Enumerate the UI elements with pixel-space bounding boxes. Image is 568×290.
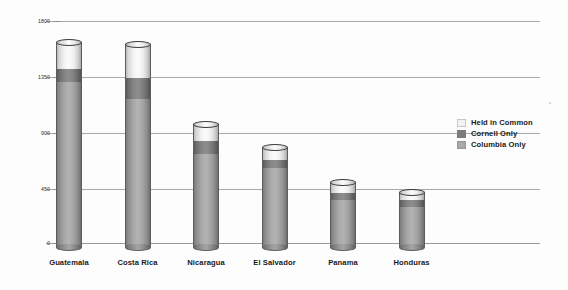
bar-segment-cornell-only[interactable] <box>125 78 151 100</box>
bar-segment-cornell-only[interactable] <box>193 141 219 154</box>
legend-label-held-in-common: Held in Common <box>471 118 533 128</box>
bar-segment-cornell-only[interactable] <box>262 160 288 168</box>
bar-bottom-cap <box>193 244 219 251</box>
legend-swatch-cornell-only <box>457 130 466 138</box>
bar-bottom-cap <box>330 244 356 251</box>
bar-bottom-cap <box>262 244 288 251</box>
bar-nicaragua[interactable] <box>193 19 219 247</box>
bar-segment-columbia-only[interactable] <box>193 154 219 247</box>
legend-swatch-held-in-common <box>457 119 466 127</box>
legend-swatch-columbia-only <box>457 141 466 149</box>
legend-label-cornell-only: Cornell Only <box>471 129 517 139</box>
legend-item-cornell-only[interactable]: Cornell Only <box>457 128 557 139</box>
bar-segment-columbia-only[interactable] <box>56 82 82 247</box>
bar-segment-cornell-only[interactable] <box>56 69 82 83</box>
x-axis-labels: GuatemalaCosta RicaNicaraguaEl SalvadorP… <box>22 258 540 272</box>
bar-segment-columbia-only[interactable] <box>399 207 425 247</box>
bar-segment-held-in-common[interactable] <box>56 43 82 69</box>
x-label-honduras: Honduras <box>372 258 452 268</box>
bar-bottom-cap <box>56 244 82 251</box>
bar-segment-cornell-only[interactable] <box>330 193 356 201</box>
bar-top-cap <box>193 121 219 128</box>
legend-label-columbia-only: Columbia Only <box>471 140 526 150</box>
bar-bottom-cap <box>399 244 425 251</box>
bar-top-cap <box>399 189 425 196</box>
bar-bottom-cap <box>125 244 151 251</box>
bar-el-salvador[interactable] <box>262 19 288 247</box>
bar-segment-held-in-common[interactable] <box>125 45 151 78</box>
legend-item-held-in-common[interactable]: Held in Common <box>457 117 557 128</box>
bar-guatemala[interactable] <box>56 19 82 247</box>
chart-container: 1800 1350 900 450 0 GuatemalaCosta RicaN… <box>0 0 568 290</box>
bar-segment-columbia-only[interactable] <box>262 168 288 247</box>
bar-honduras[interactable] <box>399 19 425 247</box>
chart-legend: Held in Common Cornell Only Columbia Onl… <box>457 117 557 150</box>
bar-segment-columbia-only[interactable] <box>125 99 151 247</box>
bar-segment-cornell-only[interactable] <box>399 200 425 207</box>
image-speck <box>549 102 551 104</box>
legend-item-columbia-only[interactable]: Columbia Only <box>457 139 557 150</box>
bar-panama[interactable] <box>330 19 356 247</box>
bar-costa-rica[interactable] <box>125 19 151 247</box>
bar-segment-columbia-only[interactable] <box>330 200 356 247</box>
